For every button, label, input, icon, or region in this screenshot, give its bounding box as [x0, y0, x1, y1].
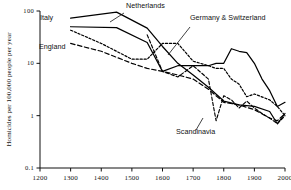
annotation-scandinavia: Scandinavia	[176, 127, 215, 136]
x-tick-label: 1900	[247, 174, 262, 182]
x-tick-label: 1300	[63, 174, 78, 182]
y-tick-label: 1	[30, 112, 34, 119]
annotation-leader	[168, 27, 190, 55]
x-tick-label: 1600	[155, 174, 170, 182]
series-england	[71, 43, 285, 120]
figure-caption-fragment	[6, 185, 291, 190]
y-tick-label: 10	[27, 59, 34, 66]
x-tick-label: 1200	[33, 174, 48, 182]
y-tick-label: 100	[23, 7, 34, 14]
annotation-germany-switzerland: Germany & Switzerland	[190, 13, 266, 22]
annotation-leader	[110, 13, 124, 22]
x-tick-label: 2000	[278, 174, 291, 182]
x-tick-label: 1400	[94, 174, 109, 182]
annotation-netherlands: Netherlands	[126, 1, 165, 10]
x-tick-label: 1800	[216, 174, 231, 182]
annotation-england: England	[39, 42, 65, 51]
chart-axes	[40, 11, 285, 168]
y-axis-title: Homicides per 100,000 people per year	[5, 32, 13, 147]
annotation-italy: Italy	[40, 13, 54, 22]
homicide-rate-chart: 0.11101001200130014001500160017001800190…	[0, 0, 291, 190]
chart-canvas: 0.11101001200130014001500160017001800190…	[0, 0, 291, 190]
x-tick-label: 1500	[124, 174, 139, 182]
y-tick-label: 0.1	[25, 164, 34, 171]
series-italy	[71, 27, 285, 107]
x-tick-label: 1700	[186, 174, 201, 182]
series-scandinavia	[147, 35, 285, 124]
